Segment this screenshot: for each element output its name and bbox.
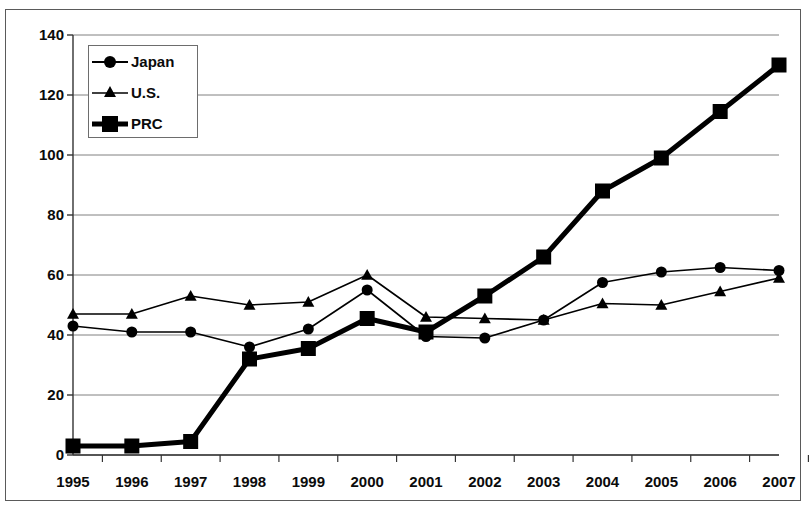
y-axis-tick-label: 80 <box>14 206 64 223</box>
x-axis-tick-label: 2006 <box>690 473 750 490</box>
y-axis-tick-label: 100 <box>14 146 64 163</box>
y-axis-tick-label: 140 <box>14 26 64 43</box>
x-axis-tick-label: 1995 <box>43 473 103 490</box>
legend-item-prc: PRC <box>89 108 197 139</box>
x-axis-tick-label: 1996 <box>102 473 162 490</box>
x-axis-tick-label: 1999 <box>278 473 338 490</box>
x-axis-tick-label: 1997 <box>161 473 221 490</box>
y-axis-tick-label: 20 <box>14 386 64 403</box>
legend-item-japan: Japan <box>89 46 197 77</box>
x-axis-ticks <box>102 455 808 462</box>
x-axis-tick-label: 2001 <box>396 473 456 490</box>
legend-item-us: U.S. <box>89 77 197 108</box>
y-axis-ticks <box>67 35 73 455</box>
y-axis-tick-label: 120 <box>14 86 64 103</box>
x-axis-tick-label: 2002 <box>455 473 515 490</box>
x-axis-tick-label: 2004 <box>573 473 633 490</box>
x-axis-tick-label: 2007 <box>749 473 809 490</box>
chart-container: 140120100806040200 199519961997199819992… <box>0 0 809 512</box>
y-axis-tick-label: 60 <box>14 266 64 283</box>
legend-label-us: U.S. <box>131 85 160 100</box>
chart-legend: Japan U.S. PRC <box>88 45 198 138</box>
x-axis-tick-label: 2003 <box>514 473 574 490</box>
x-axis-tick-label: 2000 <box>337 473 397 490</box>
square-marker-icon <box>89 110 131 138</box>
triangle-marker-icon <box>89 79 131 107</box>
y-axis-tick-label: 40 <box>14 326 64 343</box>
x-axis-tick-label: 2005 <box>631 473 691 490</box>
legend-label-japan: Japan <box>131 54 174 69</box>
circle-marker-icon <box>89 48 131 76</box>
y-axis-tick-label: 0 <box>14 446 64 463</box>
x-axis-tick-label: 1998 <box>220 473 280 490</box>
legend-label-prc: PRC <box>131 116 163 131</box>
